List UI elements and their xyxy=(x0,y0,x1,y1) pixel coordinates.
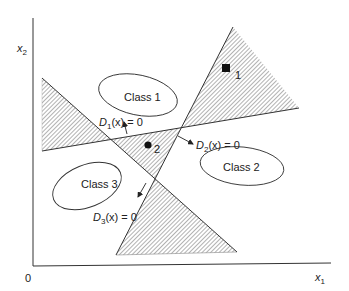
class-3-label: Class 3 xyxy=(81,178,118,190)
d3-equation-label: D3(x) = 0 xyxy=(93,211,137,226)
point-2-label: 2 xyxy=(154,143,160,155)
y-axis-label: x2 xyxy=(16,42,28,57)
d2-equation-label: D2(x) = 0 xyxy=(196,139,240,154)
x-axis-subscript: 1 xyxy=(321,277,326,286)
d1-rest: (x) = 0 xyxy=(111,116,142,128)
point-1-label: 1 xyxy=(235,69,241,81)
origin-label: 0 xyxy=(25,272,31,284)
d3-symbol: D xyxy=(93,211,101,223)
class-2-label: Class 2 xyxy=(223,161,260,173)
y-axis-subscript: 2 xyxy=(23,48,28,57)
class-1-label: Class 1 xyxy=(124,91,161,103)
decision-boundary-figure: 1 2 Class 1 Class 2 Class 3 D1(x) = 0 D2… xyxy=(0,0,349,291)
diagram-canvas: 1 2 Class 1 Class 2 Class 3 D1(x) = 0 D2… xyxy=(0,0,349,291)
d2-rest: (x) = 0 xyxy=(208,139,239,151)
hatched-region-left xyxy=(42,78,111,151)
point-1-square-marker xyxy=(222,64,230,72)
d3-rest: (x) = 0 xyxy=(105,211,136,223)
x-axis xyxy=(33,263,331,266)
d2-normal-arrow xyxy=(178,136,193,144)
x-axis-label: x1 xyxy=(314,271,326,286)
d2-symbol: D xyxy=(196,139,204,151)
d1-symbol: D xyxy=(99,116,107,128)
point-2-circle-marker xyxy=(144,141,151,148)
d1-equation-label: D1(x) = 0 xyxy=(99,116,143,131)
d3-normal-arrow xyxy=(138,183,146,197)
